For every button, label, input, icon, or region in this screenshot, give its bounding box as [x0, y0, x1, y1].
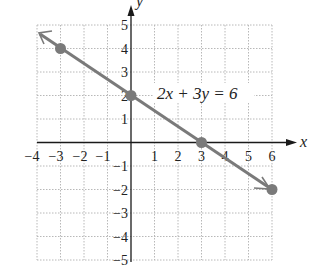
- y-tick: −1: [113, 159, 128, 174]
- series-line: [39, 31, 278, 195]
- y-axis-label: y: [134, 0, 144, 10]
- y-tick: 4: [121, 42, 128, 57]
- y-tick: −3: [113, 206, 128, 221]
- x-tick: 6: [269, 149, 276, 164]
- x-tick: 5: [245, 149, 252, 164]
- x-tick: −1: [96, 149, 111, 164]
- y-tick: −4: [113, 230, 128, 245]
- x-axis-label: x: [299, 133, 307, 150]
- point-neg3-4: [55, 43, 66, 54]
- y-tick: −2: [113, 183, 128, 198]
- x-tick: 3: [198, 149, 205, 164]
- y-axis-arrow-icon: [128, 5, 135, 16]
- point-0-2: [126, 90, 137, 101]
- x-tick-labels: −4 −3 −2 −1 1 2 3 4 5 6: [25, 149, 276, 164]
- x-tick: −4: [25, 149, 40, 164]
- y-tick: 5: [121, 18, 128, 33]
- x-tick: 1: [151, 149, 158, 164]
- point-6-neg2: [267, 184, 278, 195]
- y-tick: −5: [113, 253, 128, 268]
- x-axis-arrow-icon: [286, 139, 297, 146]
- graph: x y −4 −3 −2 −1 1 2 3 4 5 6 5 4 3 2 1 −1…: [0, 0, 315, 274]
- axes: x y: [37, 0, 307, 262]
- equation-label: 2x + 3y = 6: [157, 84, 238, 103]
- x-tick: 2: [175, 149, 182, 164]
- y-tick: 3: [121, 65, 128, 80]
- x-tick: −2: [73, 149, 88, 164]
- y-tick: 1: [121, 112, 128, 127]
- point-3-0: [196, 137, 207, 148]
- x-tick: −3: [49, 149, 64, 164]
